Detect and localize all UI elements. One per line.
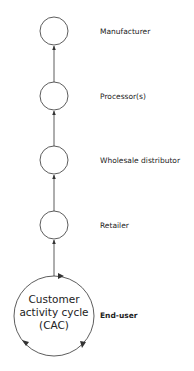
cac-label: Customer activity cycle (CAC) — [14, 293, 94, 332]
label-end-user: End-user — [100, 311, 138, 320]
cycle-arrow-right-icon — [80, 341, 86, 348]
label-wholesale: Wholesale distributor — [100, 156, 180, 165]
label-retailer: Retailer — [100, 221, 129, 230]
node-retailer — [40, 211, 68, 239]
node-manufacturer — [40, 17, 68, 45]
cycle-arrow-left-icon — [22, 340, 29, 346]
node-wholesale — [40, 146, 68, 174]
cac-line-3: (CAC) — [14, 319, 94, 332]
cac-line-2: activity cycle — [14, 306, 94, 319]
node-processor — [40, 82, 68, 110]
label-processor: Processor(s) — [100, 92, 146, 101]
cac-line-1: Customer — [14, 293, 94, 306]
label-manufacturer: Manufacturer — [100, 27, 150, 36]
cycle-arrow-top-icon — [58, 273, 64, 279]
